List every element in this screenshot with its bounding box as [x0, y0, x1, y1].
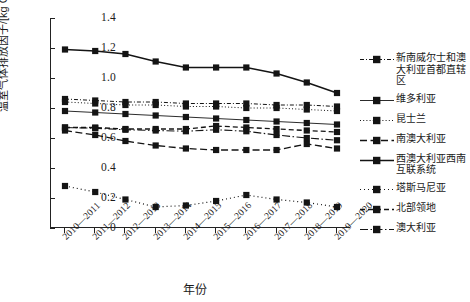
data-point-marker: [304, 141, 310, 147]
data-point-marker: [92, 132, 98, 138]
legend-line-swatch: [360, 203, 394, 216]
legend-item-0[interactable]: 新南威尔士和澳大利亚首都直辖区: [360, 52, 470, 87]
legend-label: 新南威尔士和澳大利亚首都直辖区: [394, 52, 470, 87]
data-point-marker: [122, 51, 128, 57]
data-point-marker: [273, 147, 279, 153]
legend-label: 澳大利亚: [394, 222, 436, 234]
data-point-marker: [92, 100, 98, 106]
data-point-marker: [334, 90, 340, 96]
data-point-marker: [213, 115, 219, 121]
data-point-marker: [62, 183, 68, 189]
data-point-marker: [273, 132, 279, 138]
series-line: [65, 99, 337, 107]
series-group: [62, 46, 340, 96]
legend-line-swatch: [360, 134, 394, 147]
data-point-marker: [273, 118, 279, 124]
data-point-marker: [334, 145, 340, 151]
x-axis-title: 年份: [150, 280, 240, 297]
data-point-marker: [153, 127, 159, 133]
chart-figure: 温室气体排放因子/[kg CO2e/(kW·h)] 00.20.40.60.81…: [0, 0, 470, 302]
legend-item-3[interactable]: 南澳大利亚: [360, 133, 470, 147]
data-point-marker: [243, 128, 249, 134]
data-point-marker: [273, 105, 279, 111]
data-point-marker: [92, 125, 98, 131]
data-point-marker: [183, 145, 189, 151]
series-group: [62, 96, 340, 110]
legend-item-2[interactable]: 昆士兰: [360, 113, 470, 127]
data-point-marker: [92, 189, 98, 195]
legend-item-4[interactable]: 西澳大利亚西南互联系统: [360, 153, 470, 176]
data-point-marker: [304, 127, 310, 133]
legend-label: 北部领地: [394, 202, 436, 214]
series-line: [65, 186, 337, 207]
data-point-marker: [304, 135, 310, 141]
data-point-marker: [183, 103, 189, 109]
data-point-marker: [122, 127, 128, 133]
data-point-marker: [62, 46, 68, 52]
data-point-marker: [62, 108, 68, 114]
legend-label: 昆士兰: [394, 113, 426, 125]
data-point-marker: [304, 106, 310, 112]
data-point-marker: [273, 70, 279, 76]
data-point-marker: [153, 142, 159, 148]
data-point-marker: [153, 102, 159, 108]
data-point-marker: [243, 147, 249, 153]
data-point-marker: [243, 105, 249, 111]
series-line: [65, 131, 337, 151]
legend-item-7[interactable]: 澳大利亚: [360, 222, 470, 236]
legend-item-5[interactable]: 塔斯马尼亚: [360, 182, 470, 196]
plot-area: [50, 18, 350, 228]
data-point-marker: [213, 147, 219, 153]
data-point-marker: [122, 111, 128, 117]
chart-legend: 新南威尔士和澳大利亚首都直辖区维多利亚昆士兰南澳大利亚西澳大利亚西南互联系统塔斯…: [360, 52, 470, 242]
series-line: [65, 128, 337, 141]
data-point-marker: [334, 137, 340, 143]
legend-line-swatch: [360, 114, 394, 127]
series-line: [65, 50, 337, 94]
legend-line-swatch: [360, 223, 394, 236]
data-point-marker: [243, 117, 249, 123]
data-point-marker: [243, 192, 249, 198]
legend-line-swatch: [360, 53, 394, 66]
series-group: [62, 127, 340, 153]
y-tick-mark: [50, 228, 55, 229]
legend-label: 塔斯马尼亚: [394, 182, 446, 194]
data-point-marker: [122, 138, 128, 144]
data-point-marker: [334, 129, 340, 135]
y-axis-title: 温室气体排放因子/[kg CO2e/(kW·h)]: [0, 0, 11, 112]
data-point-marker: [273, 126, 279, 132]
legend-item-1[interactable]: 维多利亚: [360, 93, 470, 107]
legend-item-6[interactable]: 北部领地: [360, 202, 470, 216]
data-point-marker: [334, 108, 340, 114]
data-point-marker: [213, 103, 219, 109]
data-point-marker: [183, 114, 189, 120]
data-point-marker: [213, 127, 219, 133]
data-point-marker: [243, 64, 249, 70]
data-point-marker: [183, 128, 189, 134]
data-point-marker: [122, 102, 128, 108]
data-point-marker: [213, 64, 219, 70]
data-point-marker: [304, 79, 310, 85]
legend-label: 西澳大利亚西南互联系统: [394, 153, 470, 176]
data-point-marker: [153, 58, 159, 64]
data-point-marker: [304, 120, 310, 126]
legend-label: 维多利亚: [394, 93, 436, 105]
data-point-marker: [62, 99, 68, 105]
series-group: [62, 108, 340, 128]
data-point-marker: [62, 124, 68, 130]
series-canvas: [51, 18, 351, 228]
legend-line-swatch: [360, 94, 394, 107]
y-axis-title-main: 温室气体排放因子/[kg CO: [0, 0, 9, 112]
data-point-marker: [92, 109, 98, 115]
legend-line-swatch: [360, 183, 394, 196]
series-line: [65, 111, 337, 125]
data-point-marker: [153, 112, 159, 118]
series-group: [62, 123, 340, 135]
data-point-marker: [334, 121, 340, 127]
legend-line-swatch: [360, 154, 394, 167]
legend-label: 南澳大利亚: [394, 133, 446, 145]
data-point-marker: [92, 48, 98, 54]
data-point-marker: [183, 64, 189, 70]
